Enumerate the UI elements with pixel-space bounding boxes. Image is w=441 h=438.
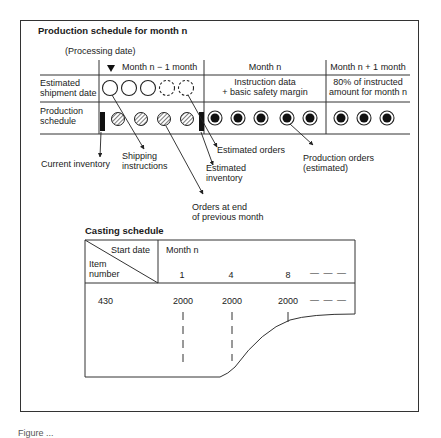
down-triangle-marker-icon: [107, 65, 115, 72]
callout-production-orders-2: (estimated): [303, 163, 348, 173]
row-label-production-schedule-2: schedule: [40, 116, 76, 126]
production-order-circles: [208, 111, 394, 125]
casting-grid: [85, 240, 355, 377]
value-cell-4: 2000: [217, 296, 247, 306]
value-cell-8: 2000: [273, 296, 303, 306]
header-item-number: Item: [89, 259, 107, 269]
header-start-date: Start date: [111, 245, 150, 255]
column-month-n: Month n: [204, 62, 326, 72]
production-schedule-title: Production schedule for month n: [38, 26, 187, 36]
row-label-estimated-shipment: Estimated: [40, 78, 80, 88]
next-month-shipment-text-2: amount for month n: [326, 87, 410, 97]
item-number-cell: 430: [98, 296, 113, 306]
callout-current-inventory: Current inventory: [41, 159, 110, 169]
start-date-4: 4: [221, 270, 241, 280]
callout-orders-end-prev-2: of previous month: [192, 212, 264, 222]
start-date-1: 1: [172, 270, 192, 280]
callout-orders-end-prev: Orders at end: [192, 202, 247, 212]
figure-caption: Figure ...: [18, 428, 54, 438]
header-item-number-2: number: [89, 269, 120, 279]
callout-shipping-instructions: Shipping: [122, 151, 157, 161]
header-month-n: Month n: [166, 245, 199, 255]
current-inventory-bar-icon: [100, 112, 105, 131]
next-month-shipment-text: 80% of instructed: [326, 77, 410, 87]
column-next-month: Month n + 1 month: [326, 62, 410, 72]
shipment-circles: [103, 81, 194, 96]
start-date-more: — — —: [310, 268, 347, 278]
month-n-shipment-text: Instruction data: [204, 77, 326, 87]
callout-estimated-orders: Estimated orders: [217, 145, 285, 155]
row-label-estimated-shipment-2: shipment date: [40, 88, 97, 98]
value-cell-more: — — —: [310, 295, 347, 305]
callout-production-orders: Production orders: [303, 153, 374, 163]
column-prev-month: Month n − 1 month: [122, 62, 197, 72]
row-label-production-schedule: Production: [40, 106, 83, 116]
casting-schedule-title: Casting schedule: [85, 226, 164, 236]
processing-date-label: (Processing date): [65, 46, 136, 56]
start-date-8: 8: [278, 270, 298, 280]
callout-estimated-inventory-2: inventory: [206, 173, 243, 183]
callout-estimated-inventory: Estimated: [206, 163, 246, 173]
callout-shipping-instructions-2: instructions: [122, 161, 168, 171]
month-n-shipment-text-2: + basic safety margin: [204, 87, 326, 97]
value-cell-1: 2000: [168, 296, 198, 306]
